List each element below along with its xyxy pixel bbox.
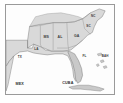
country-label-mex: MEX: [16, 82, 25, 86]
country-label-bah: BAH: [102, 54, 109, 58]
state-label-ga: GA: [74, 34, 80, 38]
state-label-tx: TX: [18, 55, 22, 59]
country-label-cuba: CUBA: [62, 81, 73, 85]
state-label-sc: SC: [86, 24, 91, 28]
state-label-nc: NC: [91, 14, 96, 18]
reference-map-figure: TX LA MS AL GA FL SC NC MEX CUBA BAH: [0, 0, 123, 103]
state-label-fl: FL: [83, 54, 87, 58]
map-graphic: TX LA MS AL GA FL SC NC MEX CUBA BAH: [6, 5, 114, 94]
map-frame: TX LA MS AL GA FL SC NC MEX CUBA BAH: [5, 4, 115, 95]
state-label-la: LA: [34, 47, 39, 51]
state-label-ms: MS: [44, 35, 50, 39]
state-label-al: AL: [58, 35, 64, 39]
